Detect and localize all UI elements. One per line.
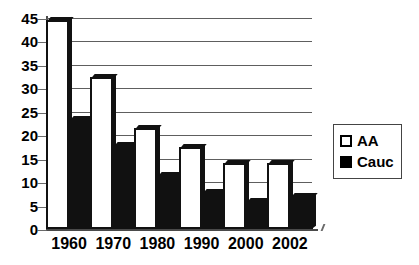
bar-body	[113, 145, 136, 229]
x-axis-tick-label: 1980	[140, 236, 176, 252]
y-axis-tick-label: 45	[21, 11, 38, 26]
x-axis-tick-label: 1960	[51, 236, 87, 252]
y-axis-tick-label: 40	[21, 34, 38, 49]
bar-group	[134, 18, 180, 229]
x-axis-labels: 196019701980199020002002	[47, 236, 312, 260]
bar-group	[267, 18, 313, 229]
x-axis-tick-label: 2000	[228, 236, 264, 252]
bar-group	[90, 18, 136, 229]
bar-body	[202, 192, 225, 230]
bar-aa-2000	[223, 163, 246, 229]
bar-body	[290, 196, 313, 229]
y-axis-tick-label: 0	[30, 222, 38, 237]
bar-body	[223, 163, 246, 229]
legend-item-aa: AA	[340, 130, 394, 151]
hollow-square-icon	[340, 135, 352, 147]
bar-cauc-1990	[202, 192, 225, 230]
bar-cauc-2000	[246, 201, 269, 229]
bar-body	[134, 128, 157, 229]
bar-chart: 051015202530354045 196019701980199020002…	[0, 0, 419, 265]
bar-cauc-1960	[69, 119, 92, 229]
bar-cauc-1970	[113, 145, 136, 229]
y-axis-tick-label: 10	[21, 175, 38, 190]
y-axis-tick-label: 30	[21, 81, 38, 96]
bar-group	[223, 18, 269, 229]
bar-group	[46, 18, 92, 229]
plot-area: 051015202530354045	[47, 18, 312, 229]
y-axis-tick-label: 25	[21, 104, 38, 119]
bar-aa-2002	[267, 163, 290, 229]
legend-item-cauc: Cauc	[340, 151, 394, 172]
bar-aa-1980	[134, 128, 157, 229]
bar-aa-1960	[46, 20, 69, 229]
bar-cauc-2002	[290, 196, 313, 229]
bar-aa-1990	[179, 147, 202, 229]
bar-body	[179, 147, 202, 229]
bar-body	[267, 163, 290, 229]
legend-label-aa: AA	[357, 133, 379, 148]
y-axis-tick-label: 15	[21, 151, 38, 166]
y-axis-tick-label: 5	[30, 198, 38, 213]
x-axis-tick-label: 1990	[184, 236, 220, 252]
x-axis-line	[46, 229, 318, 231]
bar-body	[46, 20, 69, 229]
y-axis-tick-label: 35	[21, 57, 38, 72]
bar-body	[69, 119, 92, 229]
y-axis-tick-label: 20	[21, 128, 38, 143]
bar-right-edge	[313, 193, 316, 228]
x-axis-tick-label: 1970	[95, 236, 131, 252]
legend-label-cauc: Cauc	[357, 154, 394, 169]
bar-body	[246, 201, 269, 229]
bar-body	[90, 77, 113, 229]
legend: AA Cauc	[333, 124, 402, 179]
filled-square-icon	[340, 156, 352, 168]
bar-group	[179, 18, 225, 229]
x-axis-tick-label: 2002	[272, 236, 308, 252]
bar-cauc-1980	[157, 175, 180, 229]
bar-body	[157, 175, 180, 229]
bar-aa-1970	[90, 77, 113, 229]
